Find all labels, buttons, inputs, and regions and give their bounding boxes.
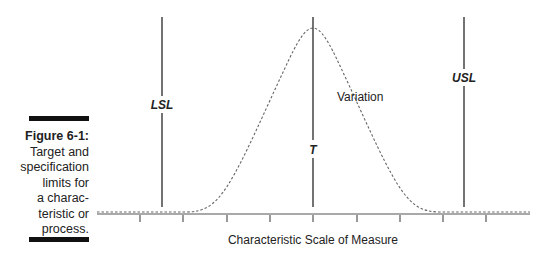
target-label: T	[309, 143, 318, 157]
spec-limits-diagram: LSL T USL Variation Characteristic Scale…	[0, 0, 555, 256]
variation-label: Variation	[337, 90, 383, 104]
usl-label: USL	[452, 71, 476, 85]
lsl-label: LSL	[151, 98, 174, 112]
axis-ticks	[140, 215, 486, 222]
axis-label: Characteristic Scale of Measure	[228, 233, 398, 247]
